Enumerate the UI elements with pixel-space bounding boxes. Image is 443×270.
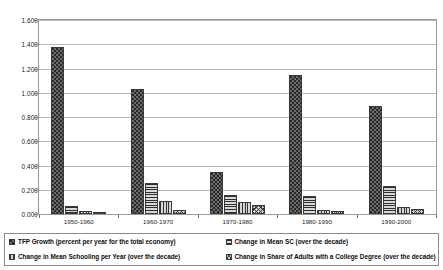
y-axis-tick-label: 1.200 (4, 66, 38, 73)
x-axis: 1950-19601960-19701970-19801980-19901990… (39, 217, 436, 229)
legend-label: Change in Mean Schooling per Year (over … (18, 253, 180, 261)
legend-label: Change in Share of Adults with a College… (235, 253, 436, 261)
y-axis-tick-mark (34, 117, 37, 118)
y-axis-tick-mark (34, 44, 37, 45)
legend-item: TFP Growth (percent per year for the tot… (5, 238, 222, 246)
bar-group (198, 20, 277, 214)
bar-series-1 (145, 183, 158, 214)
legend-item: Change in Share of Adults with a College… (222, 253, 439, 261)
bar-series-0 (210, 172, 223, 214)
bar-series-0 (289, 75, 302, 214)
y-axis-tick-mark (34, 214, 37, 215)
x-axis-tick-label: 1990-2000 (357, 217, 436, 229)
bar-series-1 (224, 195, 237, 214)
bar-series-3 (252, 205, 265, 214)
bar-series-1 (383, 186, 396, 214)
bar-series-2 (397, 207, 410, 214)
x-axis-tick-mark (436, 215, 437, 218)
bar-group (357, 20, 436, 214)
y-axis-tick-mark (34, 69, 37, 70)
legend-swatch-icon (226, 254, 232, 260)
legend-label: Change in Mean SC (over the decade) (235, 238, 349, 246)
x-axis-tick-label: 1970-1980 (198, 217, 277, 229)
x-axis-tick-label: 1960-1970 (118, 217, 197, 229)
y-axis-tick-label: 1.400 (4, 41, 38, 48)
legend-swatch-icon (226, 239, 232, 245)
y-axis-tick-label: 0.600 (4, 138, 38, 145)
bar-series-3 (411, 209, 424, 214)
y-axis-tick-label: 0.800 (4, 114, 38, 121)
chart-legend: TFP Growth (percent per year for the tot… (4, 233, 439, 266)
bar-series-3 (331, 211, 344, 214)
bar-series-0 (131, 89, 144, 214)
y-axis: 1.6001.4001.2001.0000.8000.6000.4000.200… (0, 19, 38, 215)
bar-series-2 (238, 202, 251, 214)
y-axis-tick-label: 0.200 (4, 187, 38, 194)
bar-group (118, 20, 197, 214)
legend-swatch-icon (9, 254, 15, 260)
y-axis-tick-label: 0.000 (4, 211, 38, 218)
bar-series-3 (93, 212, 106, 214)
y-axis-tick-label: 1.000 (4, 90, 38, 97)
bar-group (277, 20, 356, 214)
bar-chart: 1.6001.4001.2001.0000.8000.6000.4000.200… (0, 0, 443, 270)
plot-area (39, 20, 436, 214)
legend-item: Change in Mean SC (over the decade) (222, 238, 439, 246)
x-axis-tick-label: 1950-1960 (39, 217, 118, 229)
legend-swatch-icon (9, 239, 15, 245)
bar-series-2 (317, 210, 330, 214)
bar-series-0 (369, 106, 382, 214)
y-axis-tick-mark (34, 20, 37, 21)
bar-series-2 (159, 201, 172, 214)
bar-series-0 (51, 47, 64, 214)
legend-label: TFP Growth (percent per year for the tot… (18, 238, 176, 246)
y-axis-tick-mark (34, 93, 37, 94)
x-axis-tick-label: 1980-1990 (277, 217, 356, 229)
bar-series-1 (303, 196, 316, 214)
y-axis-tick-mark (34, 190, 37, 191)
bar-series-2 (79, 211, 92, 214)
y-axis-tick-label: 0.400 (4, 163, 38, 170)
legend-item: Change in Mean Schooling per Year (over … (5, 253, 222, 261)
y-axis-tick-mark (34, 141, 37, 142)
bar-series-3 (173, 210, 186, 214)
bar-group (39, 20, 118, 214)
bar-series-1 (65, 206, 78, 214)
y-axis-tick-label: 1.600 (4, 17, 38, 24)
y-axis-tick-mark (34, 166, 37, 167)
